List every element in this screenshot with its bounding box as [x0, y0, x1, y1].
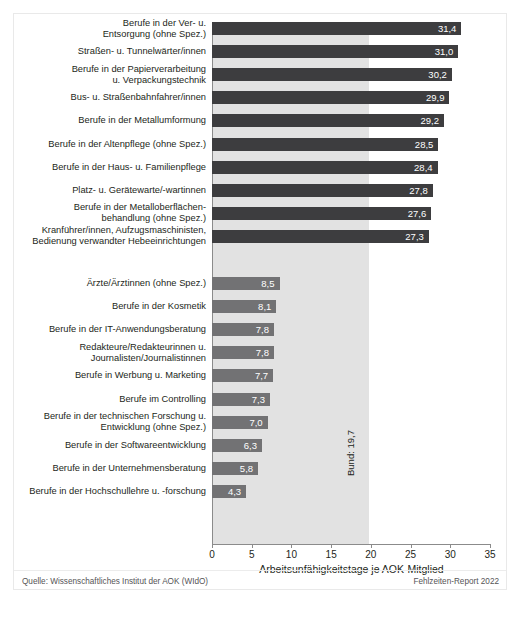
- x-tick-mark: [291, 544, 292, 548]
- bar-value-label: 7,8: [256, 346, 269, 359]
- bar-value-label: 4,3: [228, 485, 241, 498]
- x-tick-label: 30: [445, 549, 456, 560]
- bar: 7,0: [212, 416, 268, 429]
- category-label: Berufe in der Metalloberflächen- behandl…: [0, 202, 206, 224]
- x-tick-mark: [371, 544, 372, 548]
- category-label: Berufe in der Altenpflege (ohne Spez.): [0, 139, 206, 150]
- x-tick-mark: [490, 544, 491, 548]
- bar-value-label: 30,2: [428, 68, 447, 81]
- bar: 7,7: [212, 369, 273, 382]
- report-note: Fehlzeiten-Report 2022: [413, 577, 499, 586]
- source-note: Quelle: Wissenschaftliches Institut der …: [22, 577, 208, 586]
- bar: 8,5: [212, 277, 280, 290]
- category-label: Berufe in der IT-Anwendungsberatung: [0, 324, 206, 335]
- bar-value-label: 29,9: [426, 91, 445, 104]
- x-tick-mark: [212, 544, 213, 548]
- x-tick-label: 15: [326, 549, 337, 560]
- x-tick-mark: [252, 544, 253, 548]
- bar: 5,8: [212, 462, 258, 475]
- bar-value-label: 7,7: [255, 369, 268, 382]
- bar-value-label: 31,0: [435, 45, 454, 58]
- bar-value-label: 28,4: [414, 161, 433, 174]
- x-tick-mark: [331, 544, 332, 548]
- bar-value-label: 6,3: [244, 439, 257, 452]
- bar-value-label: 7,3: [252, 393, 265, 406]
- category-label: Berufe in der Kosmetik: [0, 301, 206, 312]
- bar-value-label: 29,2: [420, 114, 439, 127]
- x-axis-line: [212, 544, 491, 545]
- bar-value-label: 8,5: [261, 277, 274, 290]
- x-tick-label: 20: [365, 549, 376, 560]
- bar-value-label: 27,6: [408, 207, 427, 220]
- bar: 28,4: [212, 161, 438, 174]
- bar-value-label: 28,5: [415, 138, 434, 151]
- bar: 29,2: [212, 114, 444, 127]
- bar: 31,0: [212, 45, 458, 58]
- bar: 28,5: [212, 138, 438, 151]
- bar: 27,3: [212, 230, 429, 243]
- footer-divider: [14, 570, 506, 571]
- category-label: Berufe in der Ver- u. Entsorgung (ohne S…: [0, 18, 206, 40]
- bar-value-label: 27,3: [405, 230, 424, 243]
- x-tick-mark: [411, 544, 412, 548]
- x-tick-label: 25: [405, 549, 416, 560]
- category-label: Berufe in der Papierverarbeitung u. Verp…: [0, 64, 206, 86]
- bar: 29,9: [212, 91, 449, 104]
- bar-value-label: 31,4: [438, 22, 457, 35]
- category-label: Straßen- u. Tunnelwärter/innen: [0, 46, 206, 57]
- x-tick-label: 5: [249, 549, 255, 560]
- x-tick-label: 35: [484, 549, 495, 560]
- chart-page: 31,4Berufe in der Ver- u. Entsorgung (oh…: [0, 0, 521, 617]
- category-label: Berufe in der technischen Forschung u. E…: [0, 411, 206, 433]
- bar: 6,3: [212, 439, 262, 452]
- category-label: Berufe in der Hochschullehre u. -forschu…: [0, 486, 206, 497]
- category-label: Kranführer/innen, Aufzugsmaschinisten, B…: [0, 225, 206, 247]
- bar: 7,8: [212, 323, 274, 336]
- bar-value-label: 27,8: [409, 184, 428, 197]
- x-tick-label: 0: [209, 549, 215, 560]
- category-label: Berufe in der Metallumformung: [0, 115, 206, 126]
- x-tick-mark: [450, 544, 451, 548]
- bar: 27,6: [212, 207, 431, 220]
- bar: 8,1: [212, 300, 276, 313]
- bar: 7,8: [212, 346, 274, 359]
- bar: 30,2: [212, 68, 452, 81]
- category-label: Bus- u. Straßenbahnfahrer/innen: [0, 92, 206, 103]
- bar: 4,3: [212, 485, 246, 498]
- x-tick-label: 10: [286, 549, 297, 560]
- category-label: Berufe in der Haus- u. Familienpflege: [0, 162, 206, 173]
- category-label: Berufe in der Unternehmensberatung: [0, 463, 206, 474]
- bar: 7,3: [212, 393, 270, 406]
- category-label: Ärzte/Ärztinnen (ohne Spez.): [0, 278, 206, 289]
- category-label: Berufe in Werbung u. Marketing: [0, 370, 206, 381]
- bar-value-label: 7,8: [256, 323, 269, 336]
- category-label: Platz- u. Gerätewarte/-wartinnen: [0, 185, 206, 196]
- category-label: Berufe im Controlling: [0, 394, 206, 405]
- bar-value-label: 7,0: [249, 416, 262, 429]
- x-axis-label: Arbeitsunfähigkeitstage je AOK-Mitglied: [212, 563, 491, 575]
- bar: 27,8: [212, 184, 433, 197]
- reference-line-label: Bund: 19,7: [345, 430, 356, 476]
- category-label: Berufe in der Softwareentwicklung: [0, 440, 206, 451]
- bar-value-label: 8,1: [258, 300, 271, 313]
- category-label: Redakteure/Redakteurinnen u. Journaliste…: [0, 342, 206, 364]
- bar: 31,4: [212, 22, 461, 35]
- bar-value-label: 5,8: [240, 462, 253, 475]
